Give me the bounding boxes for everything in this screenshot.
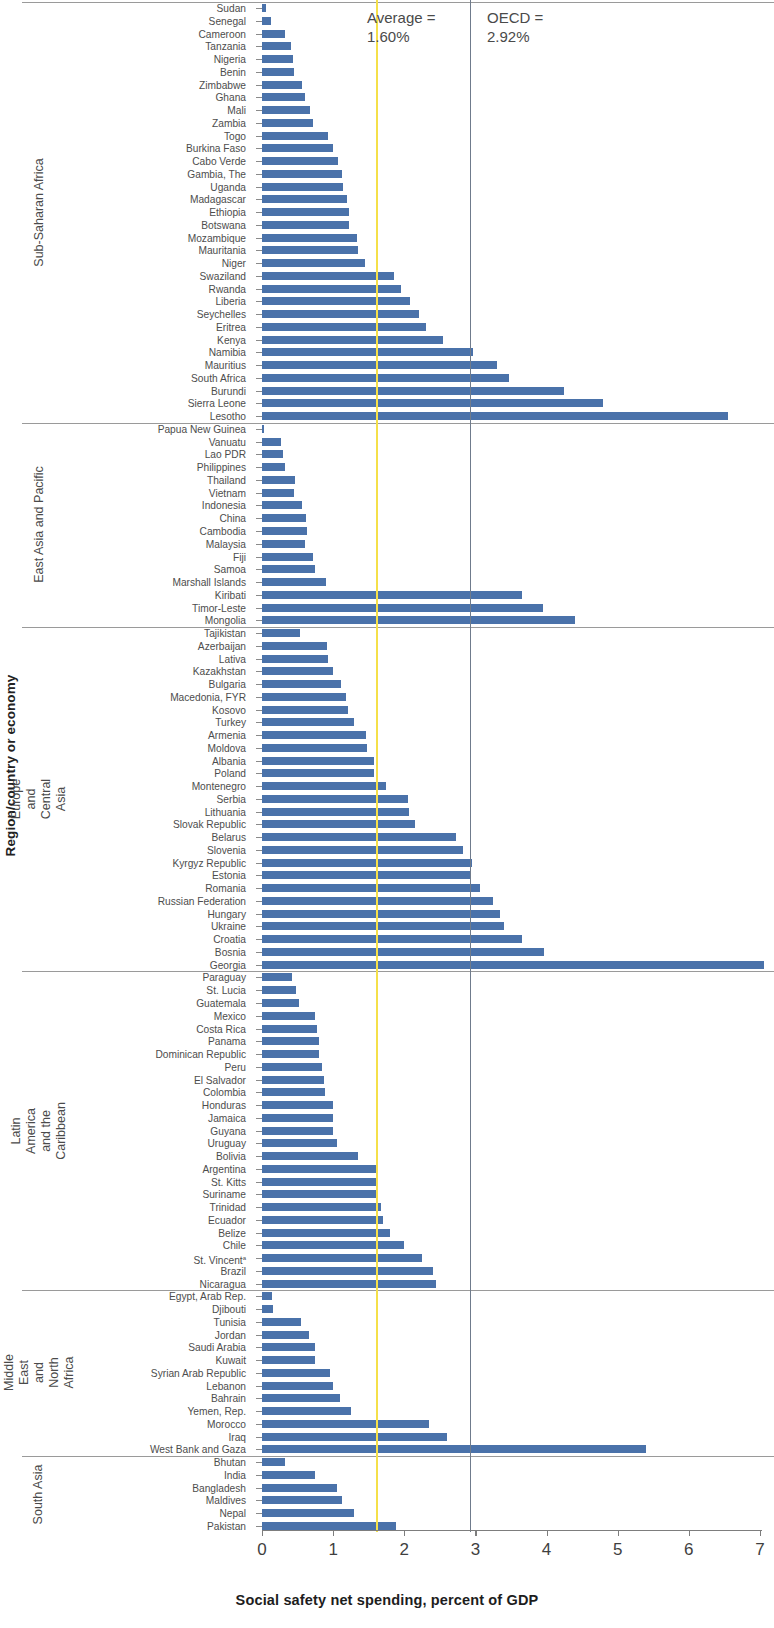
- bar: [262, 565, 315, 573]
- x-tick-label: 6: [669, 1540, 709, 1560]
- y-tick: [256, 659, 262, 660]
- y-tick: [256, 480, 262, 481]
- category-label: Mexico: [214, 1010, 246, 1021]
- bar: [262, 910, 500, 918]
- average-reference-line: [376, 0, 378, 1532]
- y-tick: [256, 710, 262, 711]
- category-label: Fiji: [233, 551, 246, 562]
- bar: [262, 132, 328, 140]
- bar: [262, 1101, 333, 1109]
- x-tick: [760, 1530, 761, 1536]
- bar: [262, 55, 293, 63]
- plot-top-border: [22, 2, 774, 3]
- y-tick: [256, 276, 262, 277]
- category-label: Turkey: [215, 717, 246, 728]
- y-tick: [256, 97, 262, 98]
- y-tick: [256, 148, 262, 149]
- category-label: Lesotho: [210, 411, 246, 422]
- bar: [262, 157, 338, 165]
- y-tick: [256, 403, 262, 404]
- bar: [262, 616, 575, 624]
- bar: [262, 706, 348, 714]
- y-tick: [256, 467, 262, 468]
- y-tick: [256, 1347, 262, 1348]
- group-separator: [22, 423, 774, 424]
- category-label: Pakistan: [207, 1521, 246, 1532]
- category-label: Moldova: [207, 742, 246, 753]
- y-tick: [256, 1526, 262, 1527]
- category-label: Bulgaria: [209, 679, 246, 690]
- y-tick: [256, 1029, 262, 1030]
- category-label: Ukraine: [211, 921, 246, 932]
- y-tick: [256, 620, 262, 621]
- y-tick: [256, 646, 262, 647]
- y-tick: [256, 608, 262, 609]
- bar: [262, 208, 349, 216]
- y-tick: [256, 1475, 262, 1476]
- y-tick: [256, 1245, 262, 1246]
- bar: [262, 106, 310, 114]
- y-tick: [256, 1156, 262, 1157]
- category-label: Indonesia: [202, 500, 246, 511]
- bar: [262, 948, 544, 956]
- category-label: Nepal: [219, 1508, 246, 1519]
- category-label: Nicaragua: [200, 1278, 246, 1289]
- category-label: Tunisia: [214, 1316, 246, 1327]
- category-label: Rwanda: [209, 283, 246, 294]
- bar: [262, 693, 346, 701]
- y-tick: [256, 1386, 262, 1387]
- x-tick: [262, 1530, 263, 1536]
- category-label: Senegal: [209, 15, 246, 26]
- region-group-label: Middle East and North Africa: [22, 1290, 56, 1456]
- bar: [262, 591, 522, 599]
- y-tick: [256, 1258, 262, 1259]
- category-label: Kazakhstan: [193, 666, 246, 677]
- bar: [262, 986, 296, 994]
- oecd-annotation: OECD = 2.92%: [487, 8, 543, 46]
- category-label: Albania: [212, 755, 246, 766]
- y-tick: [256, 990, 262, 991]
- bar: [262, 1037, 319, 1045]
- bar: [262, 1050, 319, 1058]
- bar: [262, 1509, 354, 1517]
- group-separator: [22, 627, 774, 628]
- region-group-label: East Asia and Pacific: [22, 423, 56, 627]
- y-tick: [256, 914, 262, 915]
- chart-root: Region/country or economy Sub-Saharan Af…: [0, 0, 774, 1628]
- y-tick: [256, 952, 262, 953]
- category-label: Togo: [224, 130, 246, 141]
- average-annotation: Average = 1.60%: [367, 8, 436, 46]
- category-label: Morocco: [207, 1418, 246, 1429]
- category-label: Eritrea: [216, 321, 246, 332]
- x-tick-label: 5: [598, 1540, 638, 1560]
- bar: [262, 476, 295, 484]
- category-label: Paraguay: [202, 972, 246, 983]
- category-label: Bosnia: [215, 946, 246, 957]
- bar: [262, 195, 347, 203]
- y-tick: [256, 748, 262, 749]
- bar: [262, 144, 333, 152]
- y-tick: [256, 365, 262, 366]
- y-tick: [256, 46, 262, 47]
- category-label: Hungary: [207, 908, 246, 919]
- y-tick: [256, 1194, 262, 1195]
- y-tick: [256, 1041, 262, 1042]
- y-tick: [256, 1360, 262, 1361]
- plot-area: [262, 0, 760, 1530]
- y-tick: [256, 939, 262, 940]
- bar: [262, 463, 285, 471]
- y-tick: [256, 863, 262, 864]
- category-label: Liberia: [215, 296, 246, 307]
- category-label: Belize: [218, 1227, 246, 1238]
- y-tick: [256, 633, 262, 634]
- category-label: Bhutan: [214, 1457, 246, 1468]
- bar: [262, 42, 291, 50]
- y-tick: [256, 225, 262, 226]
- x-tick: [475, 1530, 476, 1536]
- y-tick: [256, 327, 262, 328]
- y-tick: [256, 582, 262, 583]
- y-tick: [256, 1016, 262, 1017]
- category-label: Ghana: [215, 92, 246, 103]
- category-label: Guatemala: [196, 997, 246, 1008]
- y-tick: [256, 21, 262, 22]
